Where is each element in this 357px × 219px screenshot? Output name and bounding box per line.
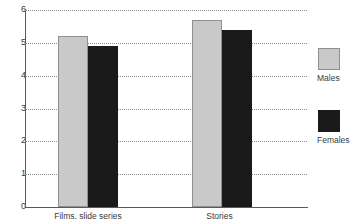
y-axis-tick-label: 3 — [10, 104, 26, 113]
chart-legend: Males Females — [317, 0, 357, 219]
legend-label-females: Females — [317, 136, 350, 145]
y-axis-tick-label: 4 — [10, 71, 26, 80]
legend-swatch-males-icon — [318, 48, 340, 70]
bar-females-films — [88, 46, 118, 207]
bar-chart: 6 5 4 3 2 1 0 Films, slide series Storie… — [0, 0, 357, 219]
gridline-6 — [25, 10, 307, 11]
y-axis-tick-label: 6 — [10, 5, 26, 14]
x-axis-category-label-films: Films, slide series — [28, 212, 148, 219]
plot-area — [25, 10, 307, 207]
y-axis-tick-label: 5 — [10, 38, 26, 47]
y-axis-tick-label: 2 — [10, 136, 26, 145]
bar-males-films — [58, 36, 88, 207]
legend-label-males: Males — [317, 74, 340, 83]
legend-swatch-females-icon — [318, 110, 340, 132]
y-axis-tick-label: 0 — [10, 202, 26, 211]
x-axis-line — [25, 207, 308, 208]
bar-females-stories — [222, 30, 252, 207]
y-axis-tick-label: 1 — [10, 169, 26, 178]
x-axis-category-label-stories: Stories — [167, 212, 272, 219]
bar-males-stories — [192, 20, 222, 207]
